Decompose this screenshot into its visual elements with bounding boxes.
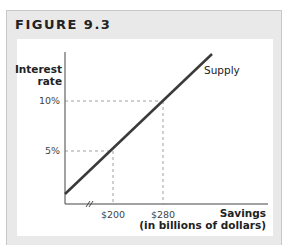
y-tick-5: 5% <box>45 145 60 156</box>
guide-lines <box>65 101 163 204</box>
x-tick-200: $200 <box>101 209 125 220</box>
x-axis-label-line1: Savings <box>220 207 266 219</box>
supply-line <box>65 54 212 194</box>
y-axis-label-line1: Interest <box>15 63 62 75</box>
y-axis-label-line2: rate <box>38 75 62 87</box>
chart: Interest rate 10% 5% $200 $280 Savings (… <box>0 0 288 245</box>
y-tick-10: 10% <box>39 95 60 106</box>
supply-label: Supply <box>204 64 240 76</box>
x-axis-label-line2: (in billions of dollars) <box>139 219 266 231</box>
